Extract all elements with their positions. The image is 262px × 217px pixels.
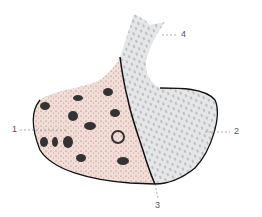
label-1: 1	[12, 124, 17, 134]
diagram-figure	[0, 0, 262, 217]
label-3: 3	[155, 200, 160, 210]
label-2: 2	[234, 126, 239, 136]
label-4: 4	[181, 29, 186, 39]
